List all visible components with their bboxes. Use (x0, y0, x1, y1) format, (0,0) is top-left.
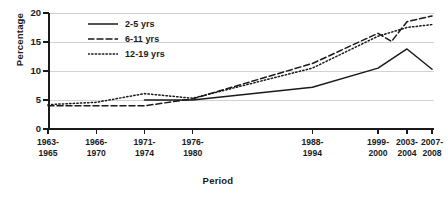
legend-label: 12-19 yrs (125, 49, 165, 59)
x-axis-tick (377, 129, 378, 134)
x-axis-tick (47, 129, 48, 134)
x-axis-tick-label: 1988-1994 (289, 137, 335, 159)
x-axis-tick (144, 129, 145, 134)
x-axis-tick (431, 129, 432, 134)
y-axis-tick-label: 20 (16, 7, 41, 18)
legend-label: 2-5 yrs (125, 19, 155, 29)
x-axis-tick-label: 1976-1980 (170, 137, 216, 159)
legend-item-6-11-yrs: 6-11 yrs (88, 31, 165, 46)
x-axis-tick-label: 1966-1970 (73, 137, 119, 159)
legend-item-12-19-yrs: 12-19 yrs (88, 46, 165, 61)
x-axis-tick-label: 2007-2008 (409, 137, 448, 159)
x-axis-tick (96, 129, 97, 134)
x-axis-tick-label: 1971-1974 (122, 137, 168, 159)
x-axis-title: Period (0, 175, 436, 186)
x-axis-tick-label: 1963-1965 (25, 137, 71, 159)
x-axis-tick (312, 129, 313, 134)
y-axis-tick-label: 0 (16, 123, 41, 134)
legend-swatch-dotted (88, 49, 118, 59)
x-axis-tick (406, 129, 407, 134)
y-axis-tick-label: 15 (16, 36, 41, 47)
legend-swatch-solid (88, 19, 118, 29)
y-axis-tick-label: 5 (16, 94, 41, 105)
y-axis-tick-label: 10 (16, 65, 41, 76)
legend-label: 6-11 yrs (125, 34, 159, 44)
x-axis-tick (192, 129, 193, 134)
legend-item-2-5-yrs: 2-5 yrs (88, 16, 165, 31)
chart-legend: 2-5 yrs6-11 yrs12-19 yrs (88, 16, 165, 61)
legend-swatch-dashed (88, 34, 118, 44)
